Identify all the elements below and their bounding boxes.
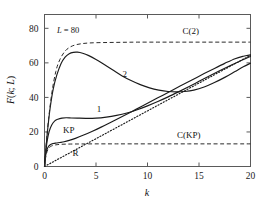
y-axis-tick-labels: 020406080 — [29, 24, 39, 172]
panel-parameter-annotation: L = 80 — [56, 25, 79, 35]
chart-canvas: 21KPRC(2)C(KP) 05101520 020406080 L = 80… — [0, 0, 264, 211]
x-axis-ticks-bottom — [45, 163, 251, 167]
y-axis-ticks-right — [247, 28, 251, 166]
x-tick-label: 10 — [143, 171, 153, 181]
y-tick-label: 80 — [29, 24, 39, 34]
x-axis-title: k — [145, 187, 150, 198]
y-tick-label: 0 — [34, 162, 39, 172]
y-tick-label: 40 — [29, 93, 39, 103]
x-tick-label: 0 — [42, 171, 47, 181]
x-tick-label: 15 — [194, 171, 204, 181]
x-tick-label: 5 — [94, 171, 99, 181]
y-axis-title: F(k; L) — [5, 76, 17, 105]
curve-label-1: 1 — [97, 104, 102, 114]
curve-label-c2: C(2) — [183, 26, 200, 36]
curve-label-r: R — [72, 148, 78, 158]
y-tick-label: 60 — [29, 58, 39, 68]
figure-container: 21KPRC(2)C(KP) 05101520 020406080 L = 80… — [0, 0, 264, 211]
x-tick-label: 20 — [246, 171, 256, 181]
x-axis-ticks-top — [45, 15, 251, 19]
curve-label-ckp: C(KP) — [177, 130, 201, 140]
curve-label-2: 2 — [123, 69, 128, 79]
curve-label-kp: KP — [63, 125, 75, 135]
x-axis-tick-labels: 05101520 — [42, 171, 255, 181]
y-tick-label: 20 — [29, 127, 39, 137]
